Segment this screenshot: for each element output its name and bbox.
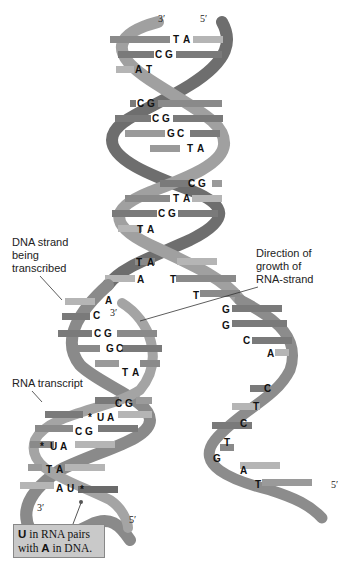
svg-text:G: G (106, 343, 114, 354)
svg-text:U: U (67, 483, 74, 494)
svg-text:T: T (255, 479, 261, 490)
svg-text:A: A (183, 193, 190, 204)
svg-text:transcribed: transcribed (12, 262, 66, 274)
svg-text:C: C (115, 398, 122, 409)
svg-text:T: T (146, 64, 152, 75)
svg-text:A: A (56, 483, 63, 494)
bottom-3prime-label: 3′ (37, 502, 44, 513)
svg-text:growth of: growth of (256, 260, 302, 272)
asterisk-marker: * (88, 412, 92, 423)
svg-text:T: T (137, 224, 143, 235)
svg-text:G: G (162, 113, 170, 124)
svg-text:A: A (197, 143, 204, 154)
dna-transcription-diagram: 3′ 5′ 3′ 3′ 5′ 5′ TA CG AT CG CG GC TA C… (0, 0, 344, 561)
svg-text:T: T (170, 274, 176, 285)
svg-text:G: G (213, 453, 221, 464)
svg-text:A: A (135, 64, 142, 75)
svg-text:T: T (122, 367, 128, 378)
svg-text:G: G (222, 304, 230, 315)
svg-text:RNA transcript: RNA transcript (12, 377, 83, 389)
svg-text:A: A (132, 367, 139, 378)
svg-text:U: U (50, 441, 57, 452)
svg-text:T: T (193, 290, 199, 301)
svg-text:C: C (94, 328, 101, 339)
callout-leader (73, 500, 83, 524)
svg-text:A: A (147, 257, 154, 268)
svg-text:G: G (147, 98, 155, 109)
bottom-right-5prime-label: 5′ (331, 479, 338, 490)
top-5prime-label: 5′ (200, 13, 207, 24)
callout-box-u-pairs-a: U in RNA pairs with A in DNA. (13, 524, 105, 558)
svg-text:G: G (198, 178, 206, 189)
svg-text:G: G (125, 398, 133, 409)
svg-text:A: A (137, 274, 144, 285)
rna-5prime-label: 5′ (129, 514, 136, 525)
svg-text:T: T (46, 464, 52, 475)
svg-text:C: C (243, 335, 250, 346)
svg-text:G: G (222, 320, 230, 331)
asterisk-marker: * (40, 441, 44, 452)
svg-text:T: T (187, 143, 193, 154)
svg-text:C: C (188, 178, 195, 189)
svg-text:T: T (173, 34, 179, 45)
svg-text:T: T (173, 193, 179, 204)
svg-text:A: A (107, 412, 114, 423)
rna-transcript-label: RNA transcript (12, 377, 83, 402)
rna-growth-3prime-label: 3′ (110, 307, 117, 318)
svg-text:C: C (75, 426, 82, 437)
svg-text:A: A (56, 464, 63, 475)
svg-text:C: C (158, 208, 165, 219)
svg-text:A: A (267, 348, 274, 359)
top-3prime-label: 3′ (158, 13, 165, 24)
svg-text:G: G (168, 208, 176, 219)
svg-text:A: A (147, 224, 154, 235)
callout-line-1: U in RNA pairs (18, 527, 100, 541)
svg-text:G: G (165, 49, 173, 60)
svg-text:RNA-strand: RNA-strand (256, 273, 313, 285)
callout-line-2: with A in DNA. (18, 541, 100, 555)
asterisk-marker: * (80, 484, 84, 495)
svg-text:C: C (152, 113, 159, 124)
svg-text:C: C (240, 418, 247, 429)
svg-text:G: G (167, 128, 175, 139)
svg-text:T: T (224, 437, 230, 448)
svg-text:T: T (253, 401, 259, 412)
svg-text:A: A (60, 441, 67, 452)
svg-text:C: C (116, 343, 123, 354)
svg-text:U: U (97, 412, 104, 423)
svg-text:G: G (104, 328, 112, 339)
dna-strand-label: DNA strand being transcribed (12, 236, 68, 300)
svg-text:A: A (105, 295, 112, 306)
svg-text:C: C (155, 49, 162, 60)
svg-text:G: G (85, 426, 93, 437)
svg-text:being: being (12, 249, 39, 261)
double-helix (108, 22, 240, 300)
svg-text:C: C (177, 128, 184, 139)
svg-text:Direction of: Direction of (256, 247, 313, 259)
svg-text:A: A (183, 34, 190, 45)
svg-text:DNA strand: DNA strand (12, 236, 68, 248)
svg-text:C: C (137, 98, 144, 109)
svg-text:C: C (264, 383, 271, 394)
svg-text:C: C (93, 310, 100, 321)
svg-text:T: T (136, 257, 142, 268)
svg-text:A: A (240, 465, 247, 476)
